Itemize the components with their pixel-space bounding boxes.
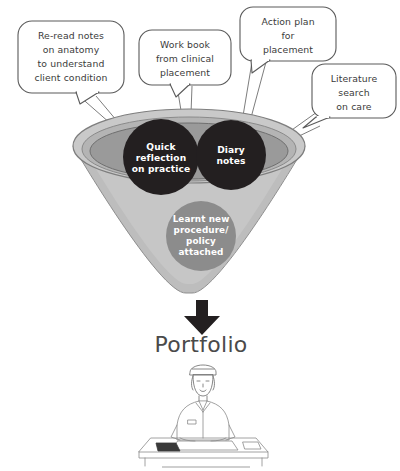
diagram-canvas: Quick reflection on practice Diary notes… bbox=[0, 0, 400, 471]
desk-tablet bbox=[156, 443, 180, 451]
funnel-item-diary-notes[interactable]: Diary notes bbox=[196, 120, 266, 190]
bubble-re-read-line-0: Re-read notes bbox=[38, 30, 104, 41]
bubble-action-plan[interactable]: Action plan for placement bbox=[240, 7, 336, 73]
learnt-line-2: policy bbox=[186, 236, 216, 246]
funnel-item-learnt-new-procedure[interactable]: Learnt new procedure/ policy attached bbox=[166, 201, 236, 271]
down-arrow-shape bbox=[184, 300, 220, 335]
learnt-line-1: procedure/ bbox=[174, 225, 230, 235]
down-arrow bbox=[184, 300, 220, 335]
diary-notes-circle bbox=[196, 120, 266, 190]
bubble-work-book[interactable]: Work book from clinical placement bbox=[139, 30, 231, 97]
diary-notes-line-1: notes bbox=[216, 156, 245, 166]
funnel-item-quick-reflection[interactable]: Quick reflection on practice bbox=[123, 119, 199, 195]
bubble-re-read-notes[interactable]: Re-read notes on anatomy to understand c… bbox=[18, 21, 124, 104]
bubble-re-read-line-3: client condition bbox=[34, 72, 107, 83]
bubble-action-plan-line-0: Action plan bbox=[261, 16, 314, 27]
quick-reflection-line-2: on practice bbox=[132, 164, 191, 174]
quick-reflection-line-1: reflection bbox=[136, 153, 186, 163]
learnt-line-0: Learnt new bbox=[173, 214, 230, 224]
bubble-literature-line-1: search bbox=[338, 87, 369, 98]
bubble-literature-line-2: on care bbox=[336, 101, 372, 112]
portfolio-funnel-diagram: Quick reflection on practice Diary notes… bbox=[0, 0, 400, 471]
bubble-work-book-tail bbox=[170, 84, 190, 97]
portfolio-label: Portfolio bbox=[154, 332, 247, 357]
bubble-re-read-line-1: on anatomy bbox=[43, 44, 100, 55]
diary-notes-line-0: Diary bbox=[217, 145, 245, 155]
bubble-literature-search[interactable]: Literature search on care bbox=[303, 64, 396, 128]
bubble-work-book-line-1: from clinical bbox=[156, 53, 214, 64]
bubble-action-plan-line-2: placement bbox=[263, 44, 313, 55]
bubble-literature-line-0: Literature bbox=[331, 73, 378, 84]
bubble-re-read-line-2: to understand bbox=[38, 58, 105, 69]
bubble-work-book-line-0: Work book bbox=[160, 39, 211, 50]
nurse-at-desk-illustration bbox=[139, 365, 268, 467]
learnt-line-3: attached bbox=[179, 247, 224, 257]
bubble-action-plan-tail bbox=[251, 60, 270, 73]
bubble-re-read-tail bbox=[76, 92, 99, 104]
bubble-work-book-line-2: placement bbox=[160, 67, 210, 78]
quick-reflection-line-0: Quick bbox=[146, 142, 176, 152]
bubble-action-plan-line-1: for bbox=[281, 30, 294, 41]
